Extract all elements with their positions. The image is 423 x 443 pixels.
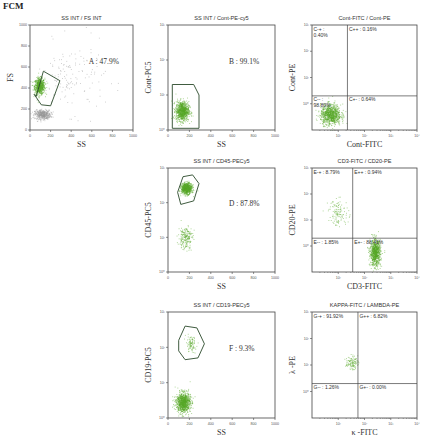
x-tick-label: 0: [167, 276, 169, 280]
event-dot: [183, 246, 184, 247]
event-dot: [183, 191, 184, 192]
event-dot: [187, 409, 188, 410]
event-dot: [337, 117, 338, 118]
event-dot: [341, 205, 342, 206]
event-dot: [186, 187, 187, 188]
event-dot: [188, 394, 189, 395]
event-dot: [333, 206, 334, 207]
event-dot: [194, 340, 195, 341]
event-dot: [323, 126, 324, 127]
event-dot: [189, 398, 190, 399]
event-dot: [63, 69, 64, 70]
event-dot: [43, 90, 44, 91]
event-dot: [180, 230, 181, 231]
event-dot: [339, 204, 340, 205]
event-dot: [369, 252, 370, 253]
event-dot: [70, 67, 71, 68]
event-dot: [333, 110, 334, 111]
event-dot: [42, 86, 43, 87]
event-dot: [189, 402, 190, 403]
event-dot: [368, 260, 369, 261]
event-dot: [41, 117, 42, 118]
event-dot: [376, 269, 377, 270]
gate-percent-label: D : 87.8%: [229, 199, 260, 208]
event-dot: [41, 88, 42, 89]
event-dot: [188, 241, 189, 242]
event-dot: [72, 103, 73, 104]
event-dot: [189, 107, 190, 108]
event-dot: [182, 107, 183, 108]
event-dot: [191, 401, 192, 402]
event-dot: [372, 252, 373, 253]
event-dot: [335, 112, 336, 113]
event-dot: [39, 119, 40, 120]
event-dot: [185, 104, 186, 105]
event-dot: [376, 236, 377, 237]
event-dot: [377, 260, 378, 261]
event-dot: [339, 110, 340, 111]
event-dot: [185, 403, 186, 404]
event-dot: [191, 346, 192, 347]
event-dots: [344, 354, 359, 370]
event-dot: [64, 64, 65, 65]
event-dot: [35, 80, 36, 81]
event-dot: [185, 396, 186, 397]
event-dot: [335, 213, 336, 214]
plot-title: SS INT / Cont-PE-cy5: [194, 15, 248, 21]
event-dot: [370, 248, 371, 249]
event-dot: [187, 233, 188, 234]
event-dot: [333, 218, 334, 219]
event-dot: [190, 345, 191, 346]
event-dot: [341, 220, 342, 221]
event-dot: [36, 114, 37, 115]
event-dot: [33, 90, 34, 91]
event-dot: [326, 125, 327, 126]
event-dot: [190, 106, 191, 107]
event-dot: [184, 396, 185, 397]
event-dot: [185, 405, 186, 406]
event-dot: [371, 256, 372, 257]
event-dot: [187, 196, 188, 197]
event-dot: [184, 240, 185, 241]
event-dot: [190, 187, 191, 188]
event-dot: [324, 115, 325, 116]
event-dot: [336, 225, 337, 226]
y-tick-label: 10¹: [304, 363, 310, 367]
event-dot: [32, 82, 33, 83]
event-dot: [350, 361, 351, 362]
event-dot: [328, 114, 329, 115]
event-dot: [173, 117, 174, 118]
event-dot: [191, 400, 192, 401]
event-dot: [334, 205, 335, 206]
event-dot: [328, 98, 329, 99]
event-dot: [181, 236, 182, 237]
event-dot: [335, 118, 336, 119]
event-dot: [372, 257, 373, 258]
event-dot: [378, 231, 379, 232]
event-dot: [60, 70, 61, 71]
event-dot: [49, 110, 50, 111]
event-dot: [333, 106, 334, 107]
event-dot: [355, 367, 356, 368]
event-dot: [177, 236, 178, 237]
event-dot: [187, 102, 188, 103]
event-dot: [384, 252, 385, 253]
event-dot: [66, 86, 67, 87]
x-tick-label: 600: [229, 134, 235, 138]
event-dot: [351, 358, 352, 359]
event-dot: [172, 396, 173, 397]
event-dot: [327, 115, 328, 116]
event-dot: [174, 118, 175, 119]
event-dot: [342, 118, 343, 119]
event-dot: [343, 218, 344, 219]
event-dot: [192, 344, 193, 345]
event-dot: [335, 114, 336, 115]
event-dot: [352, 362, 353, 363]
event-dot: [187, 411, 188, 412]
event-dot: [189, 396, 190, 397]
y-axis-label: Cont-PC5: [144, 61, 153, 93]
plot-panel-D: SS INT / CD45-PECy50200400600800100010⁰1…: [144, 158, 279, 291]
event-dot: [54, 80, 55, 81]
event-dot: [176, 112, 177, 113]
event-dot: [174, 406, 175, 407]
